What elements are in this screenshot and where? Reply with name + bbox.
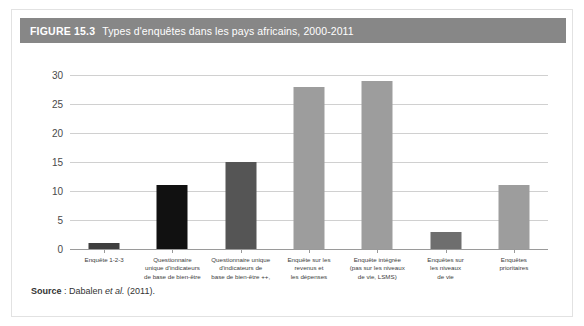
x-axis-tick: [172, 249, 173, 253]
source-separator: :: [62, 286, 70, 296]
x-axis-tick: [514, 249, 515, 253]
source-label: Source: [31, 286, 62, 296]
x-axis-label-line: Questionnaire unique: [204, 256, 278, 264]
x-axis-label-line: de vie: [409, 273, 483, 281]
y-axis-tick-label: 25: [52, 99, 63, 110]
x-axis-label-line: unique d'indicateurs: [135, 264, 209, 272]
x-axis-label-line: base de bien-être ++,: [204, 273, 278, 281]
x-axis-label-line: Enquête intégrée: [340, 256, 414, 264]
x-axis-category-label: Enquête sur lesrevenus etles dépenses: [272, 256, 346, 281]
y-axis-tick-label: 5: [57, 215, 63, 226]
x-axis-category-label: Enquête intégrée(pas sur les niveauxde v…: [340, 256, 414, 281]
x-axis-label-line: Questionnaire: [135, 256, 209, 264]
bar[interactable]: [293, 87, 324, 249]
x-axis-label-line: Enquêtes sur: [409, 256, 483, 264]
bar[interactable]: [498, 185, 529, 249]
bar-group: Enquêtesprioritaires: [480, 75, 548, 249]
plot-frame: 051015202530 Enquête 1-2-3Questionnaireu…: [70, 75, 548, 249]
x-axis-label-line: de vie, LSMS): [340, 273, 414, 281]
x-axis-category-label: Enquête 1-2-3: [67, 256, 141, 264]
bar-group: Enquête intégrée(pas sur les niveauxde v…: [343, 75, 411, 249]
figure-panel: FIGURE 15.3 Types d'enquêtes dans les pa…: [11, 9, 573, 317]
bar[interactable]: [225, 162, 256, 249]
bars-layer: Enquête 1-2-3Questionnaireunique d'indic…: [70, 75, 548, 249]
x-axis-tick: [377, 249, 378, 253]
bar[interactable]: [430, 232, 461, 249]
x-axis-category-label: Questionnaireunique d'indicateursde base…: [135, 256, 209, 281]
bar-group: Enquêtes surles niveauxde vie: [411, 75, 479, 249]
x-axis-label-line: les niveaux: [409, 264, 483, 272]
x-axis-category-label: Enquêtesprioritaires: [477, 256, 551, 273]
x-axis-tick: [446, 249, 447, 253]
y-axis-tick-label: 15: [52, 157, 63, 168]
x-axis-category-label: Enquêtes surles niveauxde vie: [409, 256, 483, 281]
bar-group: Enquête 1-2-3: [70, 75, 138, 249]
y-axis-tick-label: 20: [52, 128, 63, 139]
page-title: Types d'enquêtes dans les pays africains…: [102, 25, 354, 37]
x-axis-label-line: d'indicateurs de: [204, 264, 278, 272]
bar-group: Questionnaireunique d'indicateursde base…: [138, 75, 206, 249]
bar-group: Enquête sur lesrevenus etles dépenses: [275, 75, 343, 249]
source-text-after: (2011).: [125, 286, 155, 296]
x-axis-label-line: Enquête sur les: [272, 256, 346, 264]
x-axis-tick: [104, 249, 105, 253]
x-axis-label-line: Enquête 1-2-3: [67, 256, 141, 264]
bar[interactable]: [157, 185, 188, 249]
source-note: Source : Dabalen et al. (2011).: [31, 286, 155, 296]
figure-number: FIGURE 15.3: [30, 25, 95, 37]
x-axis-tick: [241, 249, 242, 253]
x-axis-tick: [309, 249, 310, 253]
bar[interactable]: [362, 81, 393, 249]
y-axis-tick-label: 0: [57, 244, 63, 255]
x-axis-label-line: Enquêtes: [477, 256, 551, 264]
x-axis-label-line: de base de bien-être: [135, 273, 209, 281]
source-text-before: Dabalen: [69, 286, 105, 296]
x-axis-label-line: revenus et: [272, 264, 346, 272]
source-citation-italic: et al.: [105, 286, 125, 296]
x-axis-label-line: (pas sur les niveaux: [340, 264, 414, 272]
chart-area: 051015202530 Enquête 1-2-3Questionnaireu…: [20, 51, 566, 281]
figure-title-bar: FIGURE 15.3 Types d'enquêtes dans les pa…: [20, 18, 566, 43]
bar-group: Questionnaire uniqued'indicateurs debase…: [207, 75, 275, 249]
x-axis-category-label: Questionnaire uniqued'indicateurs debase…: [204, 256, 278, 281]
y-axis-tick-label: 10: [52, 186, 63, 197]
x-axis-label-line: prioritaires: [477, 264, 551, 272]
x-axis-label-line: les dépenses: [272, 273, 346, 281]
y-axis-tick-label: 30: [52, 70, 63, 81]
